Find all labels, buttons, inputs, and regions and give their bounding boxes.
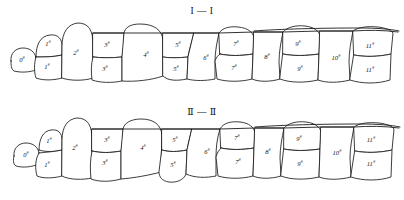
block-9-upper-shape[interactable] (283, 26, 320, 56)
block-6-shape[interactable] (186, 129, 220, 177)
block-9-lower-shape[interactable] (281, 149, 320, 179)
block-8-shape[interactable] (253, 128, 284, 178)
block-3-upper-shape[interactable] (93, 33, 124, 58)
block-1-upper-shape[interactable] (39, 130, 62, 152)
block-0-shape[interactable] (11, 48, 36, 72)
lining-segment-cross-section-figure: I — I (0, 0, 404, 200)
panel-2-diagram: 0# 1# 1# 2# 3# 3# 4# 5# 5# 6# 7# 7# 8# 9… (0, 100, 404, 200)
block-3-upper-shape[interactable] (92, 129, 123, 153)
block-2-shape[interactable] (62, 118, 92, 179)
cross-section-panel-2: Ⅱ — Ⅱ (0, 100, 404, 200)
cross-section-panel-1: I — I (0, 0, 404, 100)
panel-1-diagram: 0# 1# 1# 2# 3# 3# 4# 5# 5# 6# 7# 7# 8# 9… (0, 0, 404, 100)
block-3-lower-shape[interactable] (91, 57, 122, 82)
block-1-lower-shape[interactable] (35, 55, 63, 80)
block-3-lower-shape[interactable] (90, 151, 121, 181)
block-8-shape[interactable] (252, 32, 283, 81)
block-9-upper-shape[interactable] (284, 122, 321, 151)
